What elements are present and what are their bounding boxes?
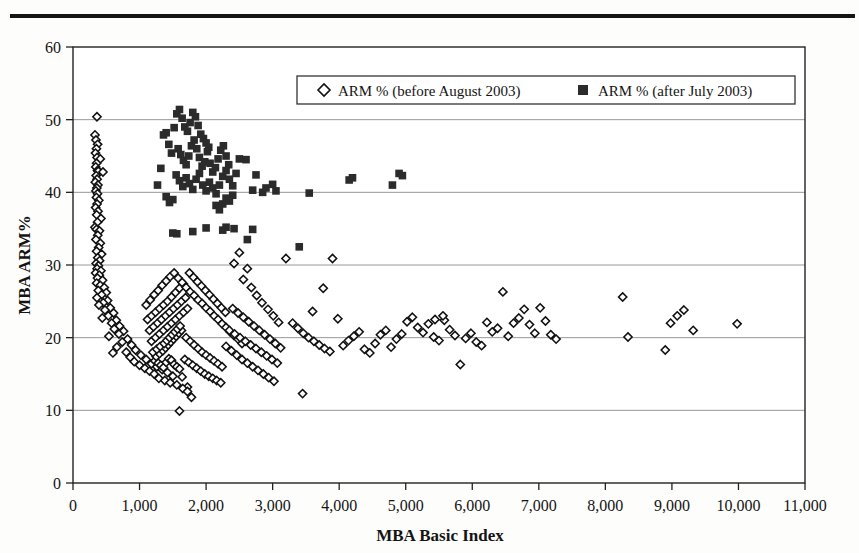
data-point-filled-square	[176, 106, 184, 114]
data-point-filled-square	[179, 183, 187, 191]
data-point-filled-square	[262, 184, 270, 192]
data-point-filled-square	[202, 224, 210, 232]
data-point-filled-square	[222, 223, 230, 231]
data-point-filled-square	[185, 152, 193, 160]
data-point-filled-square	[349, 174, 357, 182]
data-point-filled-square	[230, 225, 238, 233]
data-point-filled-square	[212, 164, 220, 172]
data-point-filled-square	[295, 243, 303, 251]
data-point-filled-square	[204, 148, 212, 156]
y-axis-title: MBA ARM%	[15, 215, 34, 315]
data-point-filled-square	[173, 230, 181, 238]
x-tick-label: 0	[69, 497, 77, 514]
x-tick-label: 1,000	[122, 497, 158, 514]
x-tick-label: 3,000	[255, 497, 291, 514]
data-point-filled-square	[182, 161, 190, 169]
data-point-filled-square	[184, 127, 192, 135]
data-point-filled-square	[162, 129, 170, 137]
figure-container: 0102030405060 01,0002,0003,0004,0005,000…	[0, 0, 859, 553]
data-point-filled-square	[192, 113, 200, 121]
data-point-filled-square	[226, 175, 234, 183]
data-point-filled-square	[157, 165, 165, 173]
data-point-filled-square	[214, 155, 222, 163]
data-point-filled-square	[229, 182, 237, 190]
y-tick-label: 10	[45, 402, 61, 419]
legend-label-before-august-2003: ARM % (before August 2003)	[338, 83, 520, 100]
x-tick-label: 4,000	[321, 497, 357, 514]
data-point-filled-square	[220, 142, 228, 150]
data-point-filled-square	[389, 181, 397, 189]
y-tick-label: 50	[45, 112, 61, 129]
legend-label-after-july-2003: ARM % (after July 2003)	[598, 83, 752, 100]
data-point-filled-square	[244, 236, 252, 244]
data-point-filled-square	[249, 226, 257, 234]
data-point-filled-square	[193, 145, 201, 153]
x-tick-label: 2,000	[188, 497, 224, 514]
y-tick-label: 30	[45, 257, 61, 274]
data-point-filled-square	[399, 172, 407, 180]
data-point-filled-square	[242, 156, 250, 164]
y-tick-label: 0	[53, 475, 61, 492]
data-point-filled-square	[232, 170, 240, 178]
legend-marker-filled-square-icon	[578, 85, 588, 95]
x-tick-label: 8,000	[587, 497, 623, 514]
data-point-filled-square	[154, 181, 162, 189]
data-point-filled-square	[202, 187, 210, 195]
x-tick-label: 7,000	[521, 497, 557, 514]
data-point-filled-square	[222, 152, 230, 160]
data-point-filled-square	[165, 141, 173, 149]
x-axis-title: MBA Basic Index	[376, 526, 504, 545]
x-axis-ticks: 01,0002,0003,0004,0005,0006,0007,0008,00…	[69, 483, 827, 514]
x-tick-label: 6,000	[454, 497, 490, 514]
data-point-filled-square	[269, 181, 277, 189]
chart-legend: ARM % (before August 2003) ARM % (after …	[297, 76, 795, 104]
data-point-filled-square	[252, 171, 260, 179]
y-axis-ticks: 0102030405060	[45, 39, 73, 492]
scatter-chart: 0102030405060 01,0002,0003,0004,0005,000…	[0, 0, 859, 553]
y-tick-label: 20	[45, 330, 61, 347]
data-point-filled-square	[305, 189, 313, 197]
data-point-filled-square	[212, 190, 220, 198]
x-tick-label: 9,000	[654, 497, 690, 514]
data-point-filled-square	[222, 167, 230, 175]
x-tick-label: 11,000	[783, 497, 826, 514]
data-point-filled-square	[170, 124, 178, 132]
data-point-filled-square	[190, 136, 198, 144]
data-point-filled-square	[272, 187, 280, 195]
data-point-filled-square	[196, 170, 204, 178]
data-point-filled-square	[229, 191, 237, 199]
data-point-filled-square	[216, 181, 224, 189]
data-point-filled-square	[189, 228, 197, 236]
y-tick-label: 60	[45, 39, 61, 56]
data-point-filled-square	[249, 186, 257, 194]
x-tick-label: 5,000	[388, 497, 424, 514]
data-point-filled-square	[169, 196, 177, 204]
data-point-filled-square	[189, 186, 197, 194]
x-tick-label: 10,000	[716, 497, 760, 514]
data-point-filled-square	[194, 122, 202, 130]
data-point-filled-square	[236, 155, 244, 163]
data-point-filled-square	[178, 114, 186, 122]
y-tick-label: 40	[45, 184, 61, 201]
data-point-filled-square	[168, 149, 176, 157]
